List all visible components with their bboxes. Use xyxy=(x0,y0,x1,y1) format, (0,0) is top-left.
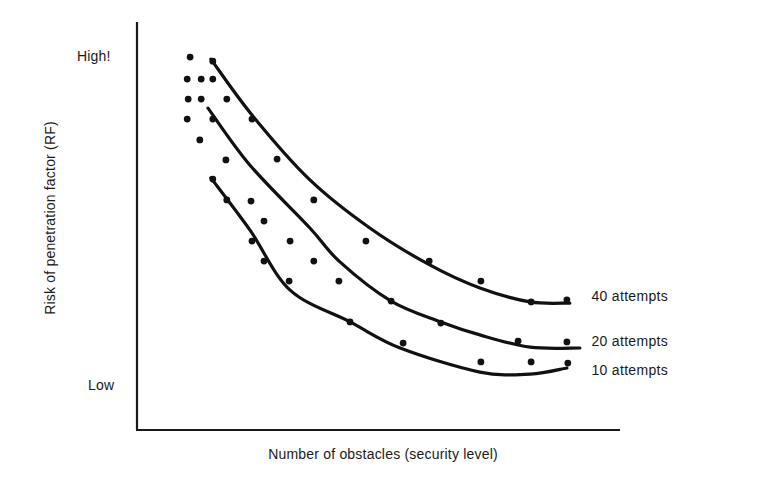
data-point xyxy=(310,258,317,265)
series-label-10-attempts: 10 attempts xyxy=(592,362,668,378)
data-point xyxy=(261,218,268,225)
data-point xyxy=(564,360,571,367)
y-tick-high-label: High! xyxy=(77,48,111,64)
data-point xyxy=(528,299,535,306)
data-point xyxy=(286,278,293,285)
data-point xyxy=(184,116,191,123)
data-point xyxy=(209,58,216,65)
data-point xyxy=(249,116,256,123)
data-point xyxy=(388,298,395,305)
data-point xyxy=(426,258,433,265)
data-point xyxy=(336,278,343,285)
fit-curve-20-attempts xyxy=(208,108,580,348)
y-axis-title: Risk of penetration factor (RF) xyxy=(42,121,58,315)
data-point xyxy=(400,340,407,347)
data-point xyxy=(347,319,354,326)
data-point xyxy=(198,96,205,103)
data-point xyxy=(261,258,268,265)
data-point xyxy=(187,54,194,61)
data-point xyxy=(310,197,317,204)
data-point xyxy=(248,198,255,205)
data-point xyxy=(478,359,485,366)
series-label-40-attempts: 40 attempts xyxy=(592,288,668,304)
data-point xyxy=(185,96,192,103)
data-point xyxy=(274,156,281,163)
y-tick-low-label: Low xyxy=(88,377,114,393)
x-axis-title: Number of obstacles (security level) xyxy=(268,446,498,462)
data-point xyxy=(363,238,370,245)
data-point xyxy=(249,238,256,245)
data-point xyxy=(209,116,216,123)
data-point xyxy=(478,278,485,285)
chart-canvas xyxy=(0,0,774,482)
data-point xyxy=(564,339,571,346)
data-point xyxy=(209,76,216,83)
series-label-20-attempts: 20 attempts xyxy=(592,333,668,349)
data-point xyxy=(209,176,216,183)
data-point xyxy=(287,238,294,245)
data-point xyxy=(564,296,571,303)
data-point xyxy=(528,359,535,366)
data-point xyxy=(184,76,191,83)
data-point xyxy=(196,137,203,144)
data-point xyxy=(437,320,444,327)
fitted-curves xyxy=(208,59,580,375)
data-point xyxy=(198,76,205,83)
data-point xyxy=(515,338,522,345)
data-point xyxy=(223,157,230,164)
data-point xyxy=(223,197,230,204)
data-point xyxy=(223,96,230,103)
